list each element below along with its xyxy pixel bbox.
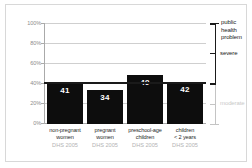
severity-legend: public health problem severe moderate (209, 19, 252, 124)
y-axis-line (44, 23, 45, 124)
y-tick-label-40: 40% (8, 80, 41, 86)
bar-pregnant-women[interactable]: 34 (87, 90, 123, 124)
threshold-line-40-percent (44, 82, 206, 84)
chart-frame: 100% 80% 60% 40% 20% 0% 41 34 49 42 (5, 4, 247, 162)
legend-line-2: health (221, 27, 242, 35)
gridline-100 (44, 23, 206, 24)
bracket-severe-top-tick (210, 23, 216, 25)
bar-value-label: 41 (47, 86, 83, 95)
x-axis-category-labels: non-pregnant women DHS 2005 pregnant wom… (44, 127, 206, 167)
legend-public-health-problem: public health problem (221, 19, 242, 42)
legend-severe: severe (220, 50, 237, 58)
y-tick-label-80: 80% (8, 40, 41, 46)
bracket-public-health-problem-upper (215, 23, 216, 84)
bracket-moderate-bottom-tick (210, 124, 216, 125)
y-tick-label-0: 0% (8, 120, 41, 126)
gridline-60 (44, 63, 206, 64)
bar-children-under-2-years[interactable]: 42 (167, 82, 203, 124)
bracket-severe-mid-tick (210, 53, 215, 54)
y-tick-label-20: 20% (8, 100, 41, 106)
y-axis-labels: 100% 80% 60% 40% 20% 0% (6, 23, 41, 124)
bracket-severe-bottom-tick (210, 83, 216, 85)
category-line-2: < 2 years (160, 134, 210, 141)
y-axis-tick-0 (41, 123, 44, 124)
category-source-label: DHS 2005 (160, 142, 210, 149)
y-tick-label-100: 100% (8, 20, 41, 26)
gridline-80 (44, 43, 206, 44)
y-axis-tick-80 (41, 43, 44, 44)
legend-line-3: problem (221, 34, 242, 42)
y-axis-tick-60 (41, 63, 44, 64)
bar-non-pregnant-women[interactable]: 41 (47, 83, 83, 124)
y-axis-tick-100 (41, 23, 44, 24)
category-label-children-under-2-years: children < 2 years DHS 2005 (160, 127, 210, 149)
bracket-public-health-problem-lower (215, 84, 216, 125)
legend-moderate: moderate (220, 100, 245, 108)
bar-value-label: 34 (87, 93, 123, 102)
bracket-moderate-mid-tick (210, 104, 215, 105)
plot-area: 41 34 49 42 (44, 23, 206, 124)
y-axis-tick-20 (41, 103, 44, 104)
category-line-1: children (160, 127, 210, 134)
y-tick-label-60: 60% (8, 60, 41, 66)
bar-value-label: 42 (167, 85, 203, 94)
legend-line-1: public (221, 19, 242, 27)
